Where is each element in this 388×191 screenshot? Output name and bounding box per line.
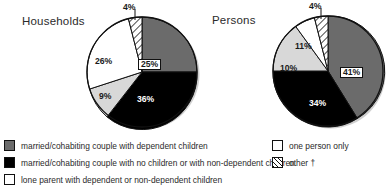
chart-title-persons: Persons — [212, 14, 256, 26]
pie-chart-households: 25% 36% 9% 26% 4% — [82, 12, 202, 132]
legend-column-left: married/cohabiting couple with dependent… — [4, 137, 266, 188]
legend-item-lone-parent: lone parent with dependent or non-depend… — [4, 171, 266, 188]
legend-item-couple-no-children: married/cohabiting couple with no childr… — [4, 154, 266, 171]
slice-label-lone-parent: 9% — [99, 91, 111, 101]
legend-label-lone-parent: lone parent with dependent or non-depend… — [21, 175, 222, 185]
legend-swatch-black-icon — [4, 157, 15, 168]
legend-label-couple-dependent: married/cohabiting couple with dependent… — [21, 141, 208, 151]
legend-column-right: one person only other † — [272, 137, 382, 171]
pie-households-svg — [82, 12, 202, 132]
legend-swatch-gray-icon — [4, 140, 15, 151]
pie-chart-persons: 41% 34% 10% 11% 4% — [268, 11, 388, 131]
legend-label-other: other † — [289, 158, 315, 168]
slice-label-couple-no-children: 36% — [137, 94, 154, 104]
slice-label-other: 4% — [123, 2, 135, 12]
legend-label-couple-no-children: married/cohabiting couple with no childr… — [21, 158, 295, 168]
legend: married/cohabiting couple with dependent… — [0, 135, 383, 191]
legend-item-couple-dependent: married/cohabiting couple with dependent… — [4, 137, 266, 154]
legend-label-one-person: one person only — [289, 141, 349, 151]
legend-swatch-white-icon — [4, 174, 15, 185]
slice-label-other: 4% — [309, 1, 321, 11]
legend-swatch-hatch-icon — [272, 157, 283, 168]
slice-label-one-person: 26% — [95, 56, 112, 66]
slice-label-lone-parent: 10% — [280, 63, 297, 73]
legend-swatch-white-icon — [272, 140, 283, 151]
slice-label-couple-dependent: 25% — [138, 59, 161, 70]
legend-item-one-person: one person only — [272, 137, 382, 154]
slice-label-one-person: 11% — [295, 41, 312, 51]
slice-label-couple-dependent: 41% — [340, 67, 363, 78]
slice-label-couple-no-children: 34% — [309, 98, 326, 108]
legend-item-other: other † — [272, 154, 382, 171]
chart-title-households: Households — [22, 15, 85, 27]
